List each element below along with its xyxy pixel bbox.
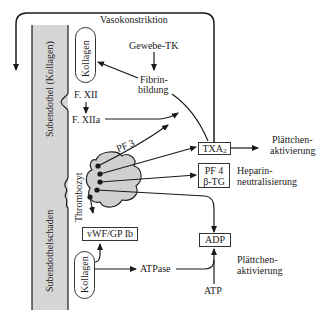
label-subendothelschaden: Subendothelschaden	[44, 210, 55, 292]
atpase-label: ATPase	[140, 263, 171, 274]
txa2-subscript: 2	[223, 147, 227, 155]
kollagen-bottom-label: Kollagen	[79, 256, 90, 293]
txa2-node: TXA2	[198, 142, 231, 155]
plaettchen-aktivierung-2b: aktivierung	[237, 265, 283, 276]
gewebe-tk-label: Gewebe-TK	[129, 40, 178, 51]
atp-label: ATP	[204, 285, 222, 296]
kollagen-top-label: Kollagen	[80, 40, 91, 77]
label-subendothel: Subendothel (Kollagen)	[44, 41, 55, 137]
plaettchen-aktivierung-2a: Plättchen-	[237, 254, 278, 265]
btg-label: β-TG	[199, 176, 229, 187]
heparin-label-2: neutralisierung	[237, 176, 297, 187]
pf4-label: PF 4	[199, 165, 229, 176]
f-xiia-label: F. XIIa	[72, 114, 100, 125]
vwf-gp-ib-node: vWF/GP Ib	[82, 227, 138, 241]
plaettchen-aktivierung-1b: aktivierung	[270, 145, 316, 156]
plaettchen-aktivierung-1a: Plättchen-	[272, 134, 313, 145]
thrombozyt-label: Thrombozyt	[73, 173, 84, 222]
txa2-label: TXA	[202, 143, 223, 154]
pf4-btg-node: PF 4 β-TG	[198, 163, 230, 188]
f-xii-label: F. XII	[74, 89, 98, 100]
heparin-label-1: Heparin-	[237, 165, 273, 176]
adp-node: ADP	[199, 233, 231, 247]
fibrinbildung-label-2: bildung	[138, 84, 169, 95]
vasokonstriktion-label: Vasokonstriktion	[100, 14, 168, 25]
